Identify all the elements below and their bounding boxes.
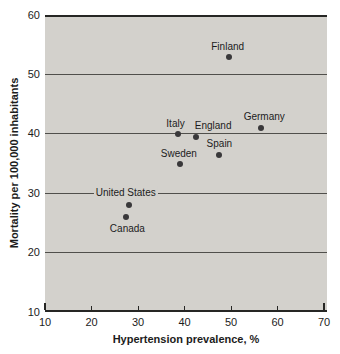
data-point-label: Spain xyxy=(205,137,235,148)
gridline xyxy=(45,193,327,194)
x-tick-mark xyxy=(277,306,278,310)
data-point-label: Finland xyxy=(209,40,246,51)
y-tick-label: 30 xyxy=(0,187,40,200)
y-tick-label: 40 xyxy=(0,127,40,140)
x-tick-label: 70 xyxy=(309,316,339,329)
y-tick-label: 50 xyxy=(0,68,40,81)
y-axis-title: Mortality per 100,000 inhabitants xyxy=(8,73,20,253)
y-tick-label: 60 xyxy=(0,9,40,22)
x-tick-label: 20 xyxy=(77,316,107,329)
x-tick-mark xyxy=(184,306,185,310)
x-tick-mark xyxy=(138,306,139,310)
axis-corner-stub xyxy=(44,303,46,310)
x-axis-title: Hypertension prevalence, % xyxy=(45,333,327,345)
gridline xyxy=(45,133,327,134)
x-tick-label: 30 xyxy=(123,316,153,329)
data-point-dot xyxy=(126,202,132,208)
data-point-dot xyxy=(226,54,232,60)
y-tick-label: 20 xyxy=(0,246,40,259)
axis-corner-stub xyxy=(323,303,325,310)
gridline xyxy=(45,252,327,253)
plot-top-border xyxy=(45,15,327,17)
x-tick-label: 50 xyxy=(216,316,246,329)
x-tick-label: 10 xyxy=(30,316,60,329)
data-point-label: Sweden xyxy=(159,147,199,158)
data-point-dot xyxy=(193,134,199,140)
scatter-chart: Mortality per 100,000 inhabitants 605040… xyxy=(0,0,340,354)
data-point-label: Italy xyxy=(164,117,186,128)
x-axis-line xyxy=(45,310,327,312)
gridline xyxy=(45,74,327,75)
x-tick-label: 60 xyxy=(263,316,293,329)
x-tick-mark xyxy=(91,306,92,310)
data-point-label: Canada xyxy=(108,222,147,233)
data-point-dot xyxy=(216,152,222,158)
data-point-dot xyxy=(175,131,181,137)
data-point-label: England xyxy=(193,119,234,130)
plot-area xyxy=(45,15,327,312)
x-tick-mark xyxy=(231,306,232,310)
data-point-dot xyxy=(177,161,183,167)
data-point-label: United States xyxy=(94,187,158,198)
data-point-label: Germany xyxy=(242,110,287,121)
x-tick-label: 40 xyxy=(170,316,200,329)
